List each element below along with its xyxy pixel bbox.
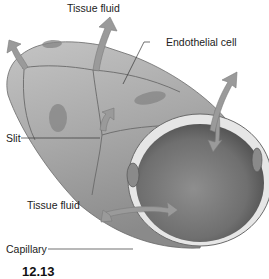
- label-tissue-fluid-top: Tissue fluid: [67, 2, 120, 14]
- figure-number: 12.13: [22, 265, 55, 278]
- label-capillary: Capillary: [6, 243, 47, 255]
- label-slit: Slit: [6, 132, 21, 144]
- label-endothelial-cell: Endothelial cell: [166, 36, 237, 48]
- capillary-lumen: [127, 114, 269, 246]
- label-tissue-fluid-bottom: Tissue fluid: [27, 199, 80, 211]
